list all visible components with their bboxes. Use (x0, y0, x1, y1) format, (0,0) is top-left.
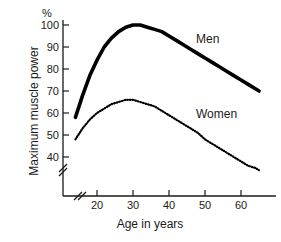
y-axis-unit-label: % (42, 8, 52, 19)
y-tick-label: 40 (33, 152, 59, 163)
x-axis-title: Age in years (90, 218, 210, 230)
x-tick-label: 50 (190, 200, 220, 211)
series-label-women: Women (196, 108, 237, 120)
y-tick-label: 50 (33, 130, 59, 141)
y-tick-marks (63, 25, 69, 157)
series-label-men: Men (196, 33, 219, 45)
y-tick-label: 80 (33, 64, 59, 75)
series-line-men (75, 25, 259, 117)
y-tick-label: 100 (33, 20, 59, 31)
y-tick-label: 90 (33, 42, 59, 53)
x-tick-label: 20 (82, 200, 112, 211)
x-tick-label: 40 (154, 200, 184, 211)
y-tick-label: 70 (33, 86, 59, 97)
x-tick-label: 30 (118, 200, 148, 211)
y-tick-label: 60 (33, 108, 59, 119)
chart-figure: % Maximum muscle power Age in years 100 … (0, 0, 281, 242)
x-tick-label: 60 (226, 200, 256, 211)
x-tick-marks (97, 190, 241, 196)
